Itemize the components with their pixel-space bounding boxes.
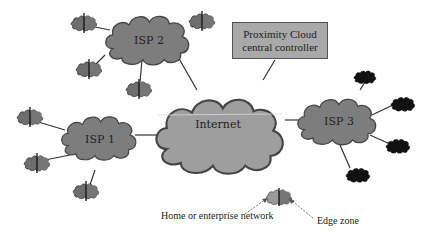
- controller-box: Proximity Cloud central controller: [232, 22, 328, 59]
- isp1-label: ISP 1: [85, 133, 115, 146]
- controller-line1: Proximity Cloud: [243, 28, 317, 41]
- internet-label: Internet: [195, 118, 241, 131]
- legend-cloud: [266, 188, 291, 206]
- legend-home-label: Home or enterprise network: [161, 210, 273, 221]
- legend-edge-label: Edge zone: [317, 215, 359, 226]
- internet-cloud: [156, 100, 283, 174]
- isp2-label: ISP 2: [134, 34, 164, 47]
- isp3-label: ISP 3: [324, 115, 354, 128]
- controller-line2: central controller: [242, 41, 317, 54]
- network-diagram: Proximity Cloud central controller ISP 2…: [0, 0, 432, 239]
